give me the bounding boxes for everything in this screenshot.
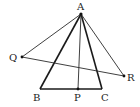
- segment-qr: [22, 57, 124, 76]
- label-b: B: [33, 92, 40, 103]
- geometry-figure: A Q R B P C: [0, 0, 140, 107]
- label-p: P: [74, 92, 81, 103]
- segment-ap: [78, 14, 81, 89]
- segment-ac: [81, 14, 102, 89]
- label-a: A: [76, 1, 85, 12]
- label-q: Q: [9, 52, 17, 63]
- point-p: [77, 88, 80, 91]
- point-q: [21, 56, 24, 59]
- point-a: [79, 12, 82, 15]
- point-r: [123, 75, 126, 78]
- segment-aq: [22, 14, 81, 57]
- label-c: C: [101, 92, 109, 103]
- segment-ab: [40, 14, 81, 89]
- segment-ar: [81, 14, 124, 76]
- label-r: R: [127, 72, 135, 83]
